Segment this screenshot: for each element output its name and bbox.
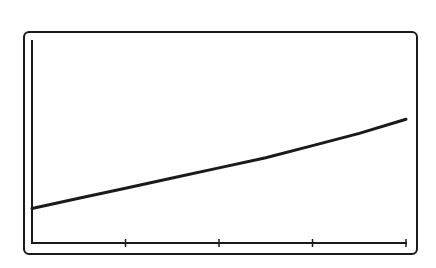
line-chart xyxy=(0,0,436,268)
data-line xyxy=(32,119,406,208)
